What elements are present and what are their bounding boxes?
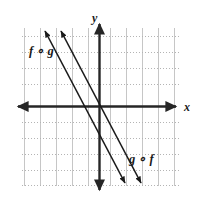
y-axis-label: y	[90, 11, 98, 25]
function-composition-graph: y x f ∘ g g ∘ f	[0, 0, 198, 203]
x-axis-label: x	[183, 100, 190, 114]
label-g-of-f: g ∘ f	[128, 152, 156, 166]
graph-canvas: y x f ∘ g g ∘ f	[0, 0, 198, 203]
label-f-of-g: f ∘ g	[29, 44, 54, 58]
